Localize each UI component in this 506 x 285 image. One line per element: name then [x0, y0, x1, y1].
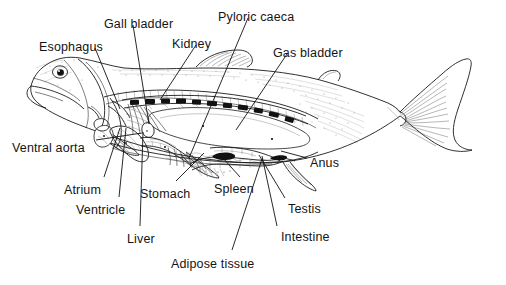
- label-esophagus: Esophagus: [39, 41, 103, 54]
- gas-bladder-organ: [148, 108, 310, 149]
- label-adipose-tissue: Adipose tissue: [171, 258, 254, 271]
- intestine-organ: [186, 152, 283, 170]
- label-testis: Testis: [288, 203, 321, 216]
- label-ventricle: Ventricle: [76, 204, 125, 217]
- fish-anatomy-figure: Gall bladder Pyloric caeca Esophagus Kid…: [0, 0, 506, 285]
- heart-organ: [88, 106, 113, 147]
- label-gas-bladder: Gas bladder: [273, 47, 343, 60]
- leader-esophagus: [95, 48, 120, 109]
- label-spleen: Spleen: [214, 183, 254, 196]
- label-liver: Liver: [127, 233, 155, 246]
- label-atrium: Atrium: [64, 184, 101, 197]
- leader-ventricle: [119, 128, 126, 197]
- label-pyloric-caeca: Pyloric caeca: [218, 11, 294, 24]
- label-intestine: Intestine: [281, 231, 330, 244]
- label-stomach: Stomach: [140, 188, 190, 201]
- leader-gall-bladder: [133, 25, 149, 124]
- label-kidney: Kidney: [172, 38, 211, 51]
- label-anus: Anus: [310, 157, 339, 170]
- label-gall-bladder: Gall bladder: [104, 18, 173, 31]
- leader-spleen: [222, 157, 240, 177]
- label-ventral-aorta: Ventral aorta: [12, 142, 85, 155]
- leader-intestine: [262, 156, 277, 226]
- leader-kidney: [160, 45, 196, 100]
